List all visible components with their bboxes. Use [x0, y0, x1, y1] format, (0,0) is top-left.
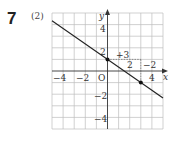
run-label: +3 — [116, 50, 130, 60]
coordinate-graph: y x O −4 −2 2 4 4 2 −2 −4 +3 −2 — [0, 0, 173, 143]
y-tick-label: 4 — [100, 24, 106, 34]
rise-label: −2 — [143, 60, 156, 70]
x-tick-label: −4 — [53, 73, 67, 83]
x-axis-label: x — [163, 72, 168, 82]
axes — [52, 11, 165, 129]
origin-label: O — [98, 73, 105, 83]
point-0-1 — [106, 57, 110, 61]
y-tick-label: −4 — [94, 114, 108, 124]
x-tick-label: 4 — [149, 73, 155, 83]
x-tick-label: 2 — [127, 60, 133, 70]
y-tick-label: −2 — [94, 91, 107, 101]
x-tick-label: −2 — [76, 73, 89, 83]
y-axis-arrow-icon — [105, 9, 110, 15]
point-3-neg1 — [139, 81, 143, 85]
y-axis-label: y — [98, 11, 105, 21]
